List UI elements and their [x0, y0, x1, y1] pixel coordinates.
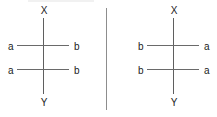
label-right-row-2-right: a [204, 65, 210, 76]
right-structure: X Y b a b a [117, 0, 217, 117]
panel-divider [106, 8, 107, 110]
label-left-row-2-right: b [74, 65, 80, 76]
horizontal-bond-right-row-1 [147, 45, 199, 46]
label-left-row-1-right: b [74, 41, 80, 52]
vertical-axis-left [43, 18, 44, 94]
left-structure: X Y a b a b [0, 0, 100, 117]
label-left-bottom: Y [41, 97, 48, 108]
label-left-top: X [41, 5, 48, 16]
label-right-row-1-right: a [204, 41, 210, 52]
label-right-row-2-left: b [138, 65, 144, 76]
label-left-row-2-left: a [8, 65, 14, 76]
horizontal-bond-left-row-1 [17, 45, 69, 46]
label-left-row-1-left: a [8, 41, 14, 52]
label-right-bottom: Y [171, 97, 178, 108]
structure-figure: X Y a b a b X Y b a b a [0, 0, 217, 117]
horizontal-bond-right-row-2 [147, 69, 199, 70]
horizontal-bond-left-row-2 [17, 69, 69, 70]
label-right-top: X [171, 5, 178, 16]
vertical-axis-right [173, 18, 174, 94]
label-right-row-1-left: b [138, 41, 144, 52]
